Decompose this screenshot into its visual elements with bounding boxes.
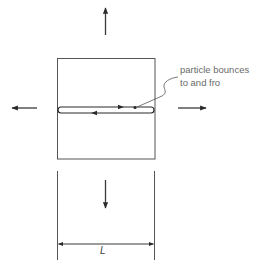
diagram-canvas: particle bounces to and fro L bbox=[0, 0, 258, 272]
leader-line bbox=[137, 77, 178, 107]
particle-annotation: particle bounces to and fro bbox=[180, 64, 249, 89]
annotation-line-2: to and fro bbox=[180, 77, 249, 90]
dimension-label: L bbox=[100, 245, 106, 256]
annotation-line-1: particle bounces bbox=[180, 64, 249, 77]
leftward-direction-icon bbox=[91, 111, 97, 116]
diagram-svg bbox=[0, 0, 258, 272]
particle-dot bbox=[133, 106, 136, 109]
container-box bbox=[58, 59, 156, 160]
rightward-direction-icon bbox=[118, 105, 124, 110]
